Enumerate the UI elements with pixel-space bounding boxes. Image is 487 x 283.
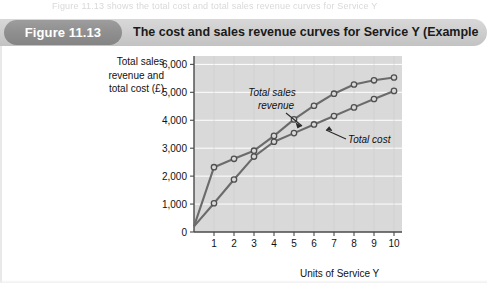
y-tick-label: 0	[181, 227, 187, 238]
data-point	[231, 177, 236, 182]
figure-header-bar: Figure 11.13 The cost and sales revenue …	[0, 19, 487, 46]
annotation-total-sales-revenue-line-2: revenue	[258, 100, 295, 111]
x-tick-label: 9	[371, 238, 377, 249]
data-point	[391, 88, 396, 93]
y-tick-label: 2,000	[162, 171, 187, 182]
figure-number-badge: Figure 11.13	[4, 20, 122, 45]
data-point	[331, 113, 336, 118]
x-tick-label: 5	[291, 238, 297, 249]
y-tick-label: 5,000	[162, 87, 187, 98]
annotation-total-cost: Total cost	[348, 134, 392, 145]
figure-left-edge	[0, 46, 2, 283]
data-point	[391, 75, 396, 80]
y-tick-label: 4,000	[162, 115, 187, 126]
data-point	[331, 91, 336, 96]
chart-plot-container: 01,0002,0003,0004,0005,0006,000 12345678…	[150, 50, 410, 265]
data-point	[311, 122, 316, 127]
data-point	[351, 82, 356, 87]
data-point	[271, 133, 276, 138]
data-point	[351, 105, 356, 110]
x-tick-label: 6	[311, 238, 317, 249]
data-point	[231, 156, 236, 161]
data-point	[211, 164, 216, 169]
data-point	[311, 103, 316, 108]
x-tick-label: 7	[331, 238, 337, 249]
x-tick-label: 1	[211, 238, 217, 249]
data-point	[371, 96, 376, 101]
figure-title: The cost and sales revenue curves for Se…	[133, 19, 479, 46]
x-tick-label: 4	[271, 238, 277, 249]
data-point	[371, 78, 376, 83]
y-tick-label: 3,000	[162, 143, 187, 154]
y-tick-label: 1,000	[162, 199, 187, 210]
annotation-total-sales-revenue-line-1: Total sales	[248, 87, 295, 98]
data-point	[291, 130, 296, 135]
data-point	[251, 148, 256, 153]
x-tick-label: 10	[388, 238, 400, 249]
data-point	[251, 154, 256, 159]
y-tick-label: 6,000	[162, 59, 187, 70]
y-tick-group: 01,0002,0003,0004,0005,0006,000	[162, 59, 194, 238]
x-tick-label: 2	[231, 238, 237, 249]
x-axis-title: Units of Service Y	[300, 268, 379, 279]
x-tick-label: 3	[251, 238, 257, 249]
page-running-text: Figure 11.13 shows the total cost and to…	[0, 0, 487, 13]
line-chart: 01,0002,0003,0004,0005,0006,000 12345678…	[150, 50, 410, 265]
figure-body: Total sales revenue and total cost (£) 0…	[0, 46, 487, 283]
data-point	[271, 139, 276, 144]
x-tick-label: 8	[351, 238, 357, 249]
x-tick-group: 12345678910	[211, 232, 400, 249]
data-point	[211, 201, 216, 206]
